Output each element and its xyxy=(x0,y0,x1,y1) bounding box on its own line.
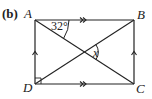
vertex-label-c: C xyxy=(136,81,145,96)
vertex-label-a: A xyxy=(23,6,32,21)
vertex-label-d: D xyxy=(22,80,33,95)
part-label: (b) xyxy=(2,6,18,21)
vertex-label-b: B xyxy=(137,7,145,22)
rectangle-diagram: (b) A B C D 32° x xyxy=(0,0,152,99)
angle-label-unknown: x xyxy=(92,46,99,60)
angle-label-given: 32° xyxy=(51,19,68,33)
